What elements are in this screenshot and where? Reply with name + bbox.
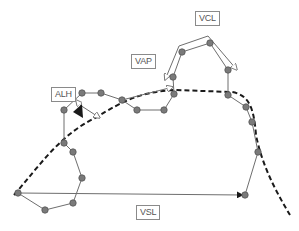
vsl-arrow — [18, 193, 243, 195]
vsl-label: VSL — [136, 205, 160, 220]
vcl-arrow-left — [165, 36, 208, 80]
vap-label: VAP — [131, 54, 156, 69]
alh-arrow-open-up — [76, 100, 80, 105]
vcl-label: VCL — [195, 11, 220, 26]
alh-label: ALH — [51, 87, 76, 102]
alh-arrow-open — [80, 105, 100, 118]
vap-arrow — [122, 87, 173, 100]
alh-arrow-solid — [73, 104, 83, 118]
sperm-kinematics-diagram — [0, 0, 299, 231]
